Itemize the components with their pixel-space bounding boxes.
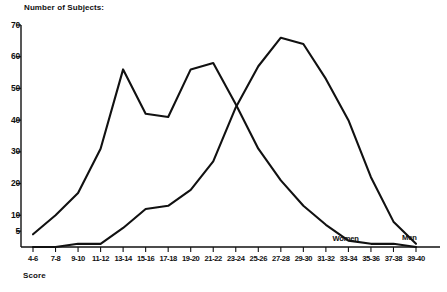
x-axis-label: Score xyxy=(23,271,46,280)
data-series-group xyxy=(33,38,416,247)
x-axis-tick-label: 17-18 xyxy=(159,254,176,263)
chart-title: Number of Subjects: xyxy=(24,3,104,12)
series-line-women xyxy=(33,63,416,247)
x-axis-tick-label: 37-38 xyxy=(385,254,402,263)
x-axis-tick-label: 25-26 xyxy=(250,254,267,263)
plot-area xyxy=(0,0,447,292)
axes xyxy=(16,25,440,252)
x-axis-tick-label: 21-22 xyxy=(205,254,222,263)
x-axis-tick-label: 15-16 xyxy=(137,254,154,263)
x-axis-tick-label: 27-28 xyxy=(272,254,289,263)
y-axis-tick-label: 60 xyxy=(0,51,20,61)
y-axis-tick-label: 20 xyxy=(0,178,20,188)
line-chart: Number of Subjects: 510203040506070 4-67… xyxy=(0,0,447,292)
y-axis-tick-label: 50 xyxy=(0,83,20,93)
x-axis-tick-label: 7-8 xyxy=(51,254,61,263)
x-axis-tick-label: 35-36 xyxy=(362,254,379,263)
y-axis-tick-label: 5 xyxy=(0,226,20,236)
x-axis-tick-label: 23-24 xyxy=(227,254,244,263)
x-axis-tick-label: 4-6 xyxy=(28,254,38,263)
x-axis-ticks xyxy=(33,247,416,252)
y-axis-tick-label: 10 xyxy=(0,210,20,220)
y-axis-tick-label: 70 xyxy=(0,20,20,30)
y-axis-tick-label: 30 xyxy=(0,146,20,156)
y-axis-tick-label: 40 xyxy=(0,115,20,125)
x-axis-tick-label: 13-14 xyxy=(114,254,131,263)
x-axis-tick-label: 9-10 xyxy=(71,254,85,263)
series-annotation-women: Women xyxy=(332,234,358,243)
x-axis-tick-label: 33-34 xyxy=(340,254,357,263)
series-line-men xyxy=(33,38,416,247)
x-axis-tick-label: 19-20 xyxy=(182,254,199,263)
x-axis-tick-label: 11-12 xyxy=(92,254,109,263)
x-axis-tick-label: 39-40 xyxy=(407,254,424,263)
series-annotation-men: Men xyxy=(402,233,417,242)
x-axis-tick-label: 29-30 xyxy=(295,254,312,263)
x-axis-tick-label: 31-32 xyxy=(317,254,334,263)
